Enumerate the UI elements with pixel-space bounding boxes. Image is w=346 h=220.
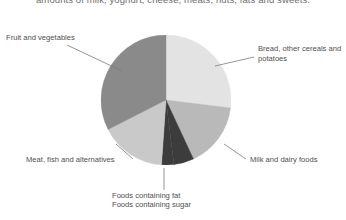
pie-label-milk-and-dairy-foods: Milk and dairy foods [250, 155, 318, 165]
pie-slice [166, 35, 231, 108]
pie-chart-svg [101, 35, 231, 165]
top-caption-text: amounts of milk, yoghurt, cheese, meats,… [0, 0, 346, 6]
pie-label-fruit-and-vegetables: Fruit and vegetables [6, 33, 75, 43]
pie-label-meat-fish-and-alternatives: Meat, fish and alternatives [26, 155, 115, 165]
pie-label-bread-other-cereals-and-potatoes: Bread, other cereals and potatoes [258, 44, 344, 63]
pie-chart [101, 35, 231, 165]
pie-label-foods-containing-sugar: Foods containing sugar [112, 200, 191, 210]
pie-slice-group [101, 35, 231, 165]
chart-page: amounts of milk, yoghurt, cheese, meats,… [0, 0, 346, 220]
